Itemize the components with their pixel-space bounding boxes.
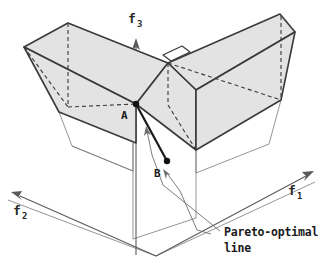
axis-label-f2: f	[13, 203, 21, 218]
point-label-A: A	[121, 109, 128, 122]
axis-f2-arrowhead	[11, 191, 22, 200]
axis-label-f2-subscript: 2	[22, 211, 27, 221]
pareto-callout-line1: Pareto-optimal	[224, 225, 318, 239]
axis-label-f1: f	[288, 183, 296, 198]
base-plane-outline	[8, 182, 315, 256]
figure-container: f 3 f 1 f 2 A B Pareto-optimal line	[0, 0, 324, 268]
callout-leader-upper	[152, 155, 220, 231]
axis-f2-group	[11, 191, 156, 256]
pareto-surface-diagram: f 3 f 1 f 2 A B Pareto-optimal line	[0, 0, 324, 268]
point-label-B: B	[154, 167, 161, 180]
pareto-callout-line2: line	[224, 241, 251, 255]
base-front-edge	[133, 218, 196, 239]
axis-label-f3-subscript: 3	[137, 19, 142, 29]
axis-label-f1-subscript: 1	[297, 191, 302, 201]
leader-arrow-lower-shaft	[166, 172, 180, 191]
axis-label-f3: f	[128, 11, 136, 26]
axis-f1-arrowhead	[302, 171, 314, 181]
callout-leader-lower	[180, 191, 211, 234]
leader-arrow-upper-shaft	[147, 131, 152, 155]
callout-leader-group	[152, 155, 220, 234]
point-A-marker	[133, 101, 139, 107]
point-B-marker	[164, 158, 170, 164]
pareto-leader-arrows-group	[147, 131, 180, 191]
base-plane-back-edge	[72, 146, 133, 171]
right-wing-group	[136, 14, 295, 150]
